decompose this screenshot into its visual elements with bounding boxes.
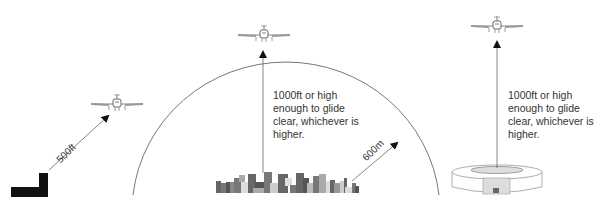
airplane-icon	[238, 25, 290, 42]
low-flying-rules-diagram: 500ft 1000ft or high enough to glide cle…	[0, 0, 609, 206]
airplane-icon	[91, 94, 143, 111]
distance-arrow-500ft	[49, 116, 108, 170]
height-label-stadium: 1000ft or high enough to glide clear, wh…	[508, 89, 594, 141]
building-icon	[11, 173, 48, 197]
height-label-city: 1000ft or high enough to glide clear, wh…	[273, 89, 359, 141]
stadium-icon	[452, 165, 542, 194]
airplane-icon	[471, 16, 523, 33]
city-skyline-icon	[216, 172, 359, 193]
